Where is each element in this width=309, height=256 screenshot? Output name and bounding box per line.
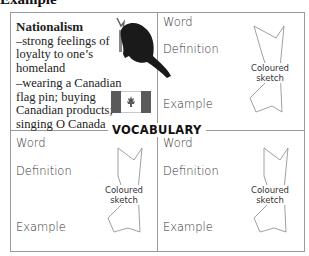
sketch-label: Coloured sketch bbox=[103, 185, 145, 205]
definition-label: Definition bbox=[16, 164, 72, 178]
sketch-label: Coloured sketch bbox=[249, 63, 291, 83]
definition-label: Definition bbox=[163, 164, 219, 178]
word-label: Word bbox=[163, 15, 193, 29]
section-heading: Example bbox=[0, 0, 57, 8]
vocabulary-label: VOCABULARY bbox=[108, 123, 206, 137]
canadian-flag-icon bbox=[111, 91, 151, 113]
word-label: Word bbox=[16, 136, 46, 150]
example-label: Example bbox=[16, 220, 66, 234]
word-label: Word bbox=[163, 136, 193, 150]
sketch-label: Coloured sketch bbox=[249, 185, 291, 205]
example-label: Example bbox=[163, 97, 213, 111]
definition-label: Definition bbox=[163, 42, 219, 56]
example-label: Example bbox=[163, 220, 213, 234]
